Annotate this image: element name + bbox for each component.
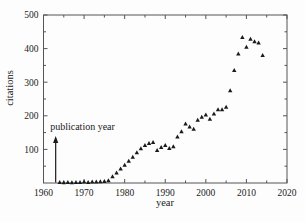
data-point <box>224 105 228 109</box>
data-point <box>102 179 106 183</box>
data-point <box>98 179 102 183</box>
data-point <box>70 180 74 184</box>
data-point <box>159 145 163 149</box>
data-point <box>62 180 66 184</box>
data-point <box>122 163 126 167</box>
data-point <box>106 178 110 182</box>
data-point <box>118 166 122 170</box>
data-point <box>256 40 260 44</box>
citations-chart-figure: citations year 1960197019801990200020102… <box>0 0 305 222</box>
data-point <box>163 143 167 147</box>
data-point <box>191 127 195 131</box>
publication-year-arrowhead <box>53 136 58 143</box>
publication-year-annotation: publication year <box>50 121 115 132</box>
x-tick-label: 2000 <box>196 188 215 198</box>
data-point <box>175 135 179 139</box>
data-point <box>208 117 212 121</box>
data-point <box>244 45 248 49</box>
data-point <box>204 112 208 116</box>
data-point <box>143 143 147 147</box>
data-point <box>220 107 224 111</box>
data-point <box>135 150 139 154</box>
data-point <box>147 141 151 145</box>
citations-scatter-plot: 1960197019801990200020102020100200300400… <box>0 0 305 222</box>
data-point <box>179 129 183 133</box>
data-point <box>151 140 155 144</box>
data-point <box>212 111 216 115</box>
data-point <box>110 174 114 178</box>
x-tick-label: 1970 <box>75 188 94 198</box>
data-point <box>260 53 264 57</box>
y-tick-label: 300 <box>24 78 39 88</box>
data-point <box>74 180 78 184</box>
y-tick-label: 500 <box>24 10 39 20</box>
x-tick-label: 2010 <box>237 188 256 198</box>
data-point <box>200 115 204 119</box>
data-point <box>155 148 159 152</box>
y-tick-label: 200 <box>24 111 39 121</box>
data-point <box>216 107 220 111</box>
data-point <box>171 144 175 148</box>
data-point <box>82 180 86 184</box>
data-point <box>240 35 244 39</box>
x-tick-label: 1960 <box>34 188 53 198</box>
data-point <box>78 180 82 184</box>
data-point <box>248 37 252 41</box>
data-point <box>94 180 98 184</box>
data-point <box>139 146 143 150</box>
data-point <box>167 146 171 150</box>
y-tick-label: 100 <box>24 145 39 155</box>
data-point <box>183 121 187 125</box>
x-tick-label: 1990 <box>156 188 175 198</box>
data-point <box>228 88 232 92</box>
data-point <box>187 124 191 128</box>
data-point <box>90 180 94 184</box>
x-tick-label: 1980 <box>115 188 134 198</box>
y-tick-label: 400 <box>24 44 39 54</box>
data-point <box>131 155 135 159</box>
data-point <box>86 180 90 184</box>
data-point <box>66 180 70 184</box>
data-point <box>58 180 62 184</box>
data-point <box>127 159 131 163</box>
data-point <box>232 68 236 72</box>
x-tick-label: 2020 <box>278 188 297 198</box>
data-point <box>114 171 118 175</box>
data-point <box>236 52 240 56</box>
data-point <box>252 39 256 43</box>
data-point <box>196 118 200 122</box>
